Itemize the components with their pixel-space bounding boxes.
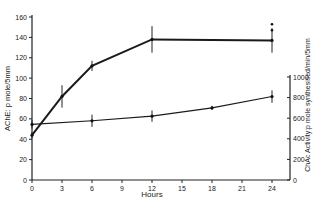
x-tick-label: 24 — [268, 185, 276, 192]
data-point — [210, 106, 213, 109]
y-axis-label: AChE: p mole/5mm — [3, 66, 12, 131]
data-point — [60, 95, 63, 98]
x-tick-label: 3 — [60, 185, 64, 192]
x-tick-label: 6 — [90, 185, 94, 192]
x-tick-label: 0 — [30, 185, 34, 192]
y-tick-label: 20 — [19, 156, 27, 163]
y-tick-label: 120 — [15, 54, 27, 61]
y-tick-label: 40 — [19, 136, 27, 143]
y-right-tick-label: 0 — [293, 177, 297, 184]
x-axis-label: Hours — [141, 190, 162, 199]
y-right-axis-label: ChAc Activity:p mole synthesised/min/5mm — [304, 38, 312, 172]
x-tick-label: 21 — [238, 185, 246, 192]
x-tick-label: 9 — [120, 185, 124, 192]
data-point — [270, 39, 273, 42]
y-tick-label: 100 — [15, 75, 27, 82]
data-point — [30, 123, 33, 126]
y-tick-label: 60 — [19, 115, 27, 122]
extra-marker — [271, 23, 274, 26]
y-tick-label: 0 — [23, 177, 27, 184]
extra-marker — [271, 29, 274, 32]
y-tick-label: 140 — [15, 34, 27, 41]
data-point — [30, 134, 33, 137]
y-tick-label: 160 — [15, 14, 27, 21]
data-point — [150, 38, 153, 41]
chart-svg: 0204060801001201401600200400600800100003… — [0, 0, 316, 208]
y-tick-label: 80 — [19, 95, 27, 102]
data-point — [90, 119, 93, 122]
data-point — [90, 64, 93, 67]
data-point — [270, 95, 273, 98]
x-tick-label: 15 — [178, 185, 186, 192]
data-point — [150, 115, 153, 118]
x-tick-label: 18 — [208, 185, 216, 192]
chart: 0204060801001201401600200400600800100003… — [0, 0, 316, 208]
